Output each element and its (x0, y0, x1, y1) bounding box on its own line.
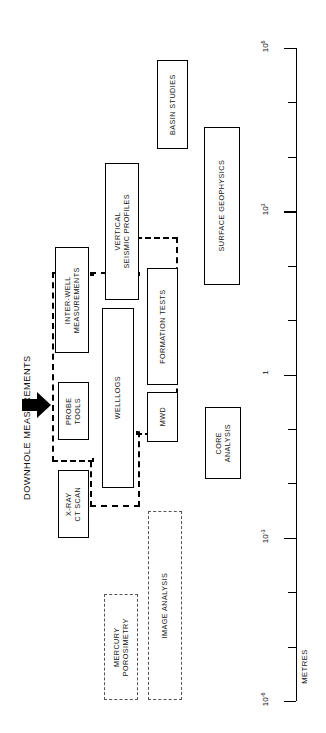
box-label-line1: X-RAY (64, 492, 73, 516)
axis-label-3: 10-3 (260, 519, 271, 553)
axis-label-mantissa: 10 (261, 43, 270, 52)
box-label: FORMATION TESTS (158, 289, 167, 363)
axis-tick-major (284, 211, 296, 212)
arrow-icon (22, 392, 52, 418)
box-vertical-seismic-profiles[interactable]: VERTICAL SEISMIC PROFILES (105, 163, 139, 300)
box-label-line2: CT SCAN (74, 487, 83, 522)
axis-tick-major (284, 538, 296, 539)
axis-label-1: 103 (260, 193, 271, 227)
axis-tick-minor (288, 320, 296, 321)
box-formation-tests[interactable]: FORMATION TESTS (147, 268, 178, 385)
box-label: X-RAY CT SCAN (64, 487, 82, 522)
box-probe-tools[interactable]: PROBE TOOLS (58, 382, 89, 440)
axis-tick-minor (288, 157, 296, 158)
box-label-line1: PROBE (64, 397, 73, 424)
axis-label-exponent: 3 (260, 204, 266, 207)
box-label: MERCURY POROSIMETRY (112, 618, 130, 676)
axis-tick-minor (288, 429, 296, 430)
box-label-line1: MERCURY (112, 627, 121, 666)
box-label-line1: CORE (214, 432, 223, 455)
box-well-logs[interactable]: WELLLOGS (102, 308, 134, 488)
axis-label-mantissa: 10 (261, 697, 270, 706)
box-mercury-porosimetry[interactable]: MERCURY POROSIMETRY (104, 594, 138, 700)
axis-label-mantissa: 10 (261, 534, 270, 543)
box-label: SURFACE GEOPHYSICS (217, 160, 226, 252)
box-label: MWD (158, 407, 167, 426)
box-label: INTER-WELL MEASUREMENTS (63, 267, 81, 333)
box-label-line2: TOOLS (73, 398, 82, 424)
box-label: WELLLOGS (113, 376, 122, 419)
box-inter-well-measurements[interactable]: INTER-WELL MEASUREMENTS (55, 247, 89, 353)
axis-tick-major (284, 701, 296, 702)
box-label: IMAGE ANALYSIS (160, 573, 169, 639)
box-image-analysis[interactable]: IMAGE ANALYSIS (148, 511, 182, 700)
axis-tick-minor (288, 592, 296, 593)
axis-label-exponent: -6 (260, 692, 266, 697)
axis-label-0: 106 (260, 29, 271, 63)
box-label: BASIN STUDIES (168, 74, 177, 135)
axis-tick-major (284, 48, 296, 49)
box-core-analysis[interactable]: CORE ANALYSIS (205, 407, 241, 479)
box-surface-geophysics[interactable]: SURFACE GEOPHYSICS (204, 127, 240, 285)
box-mwd[interactable]: MWD (147, 392, 178, 442)
box-label-line2: POROSIMETRY (121, 618, 130, 676)
diagram-canvas: DOWNHOLE MEASUREMENTS BASIN STUDIES SURF… (0, 0, 326, 733)
axis-tick-minor (288, 266, 296, 267)
box-label: VERTICAL SEISMIC PROFILES (113, 194, 131, 268)
axis-line (296, 48, 297, 701)
box-label-line1: VERTICAL (113, 212, 122, 251)
box-label: CORE ANALYSIS (214, 424, 232, 462)
axis-tick-minor (288, 647, 296, 648)
box-label-line2: MEASUREMENTS (72, 267, 81, 333)
axis-tick-minor (288, 483, 296, 484)
outline-mask-a (90, 276, 94, 458)
axis-label-4: 10-6 (260, 682, 271, 716)
axis-label-2: 1 (261, 355, 270, 389)
box-basin-studies[interactable]: BASIN STUDIES (157, 60, 188, 149)
axis-label-exponent: 6 (260, 40, 266, 43)
box-x-ray-ct-scan[interactable]: X-RAY CT SCAN (58, 470, 89, 538)
page-title: DOWNHOLE MEASUREMENTS (22, 355, 32, 500)
box-label-line2: ANALYSIS (223, 424, 232, 462)
box-label-line1: INTER-WELL (63, 276, 72, 324)
box-label-line2: SEISMIC PROFILES (122, 194, 131, 268)
axis-label-exponent: -3 (260, 529, 266, 534)
axis-title: METRES (300, 649, 309, 684)
box-label: PROBE TOOLS (64, 397, 82, 424)
axis-tick-major (284, 375, 296, 376)
axis-tick-minor (288, 102, 296, 103)
axis-label-mantissa: 10 (261, 207, 270, 216)
